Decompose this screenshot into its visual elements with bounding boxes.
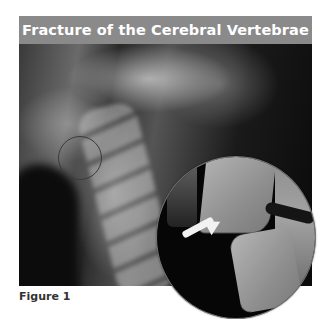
magnified-inset xyxy=(156,156,316,319)
airway-shadow xyxy=(19,164,79,286)
inset-bone-edge xyxy=(167,157,197,227)
inset-vertebra-lower xyxy=(229,226,304,314)
figure-title: Fracture of the Cerebral Vertebrae xyxy=(19,16,312,44)
fracture-marker-circle xyxy=(58,136,102,180)
figure: Fracture of the Cerebral Vertebrae xyxy=(19,16,312,286)
figure-caption: Figure 1 xyxy=(19,290,70,303)
